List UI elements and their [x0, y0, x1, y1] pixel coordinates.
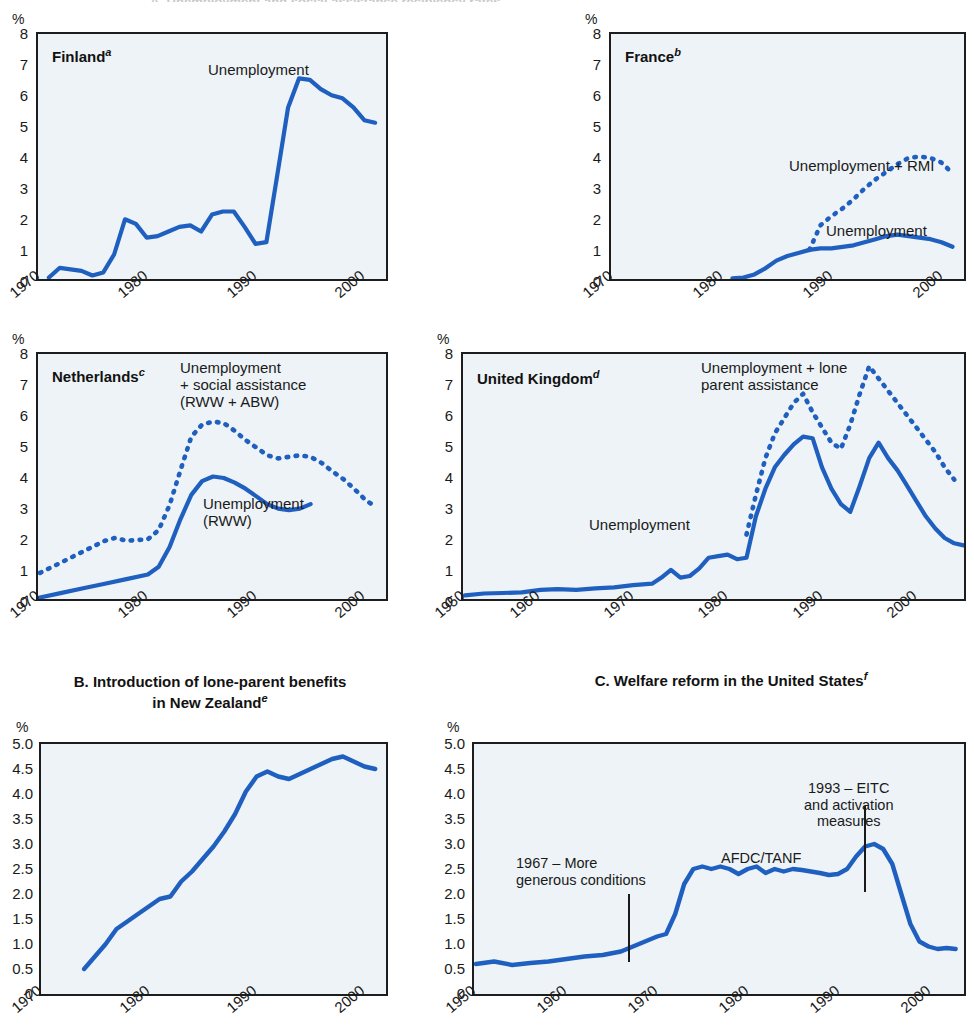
y-tick-finland-5: 5 — [0, 119, 28, 134]
y-tick-uk-1: 1 — [425, 563, 453, 578]
y-tick-us-05: 0.5 — [425, 961, 465, 976]
annotation-1967-line2: generous conditions — [516, 872, 646, 889]
plot-area-netherlands: Netherlandsc Unemployment + social assis… — [36, 352, 388, 601]
section-title-b: B. Introduction of lone-parent benefits … — [0, 673, 420, 713]
y-tick-uk-4: 4 — [425, 470, 453, 485]
y-tick-nz-35: 3.5 — [0, 811, 33, 826]
annotation-1993-line1: 1993 – EITC — [804, 780, 893, 797]
y-tick-france-2: 2 — [573, 212, 601, 227]
y-tick-nz-20: 2.0 — [0, 886, 33, 901]
y-tick-netherlands-5: 5 — [0, 439, 28, 454]
y-tick-nz-30: 3.0 — [0, 836, 33, 851]
series-label-netherlands-dotted-l3: (RWW + ABW) — [180, 394, 306, 411]
y-tick-netherlands-8: 8 — [0, 346, 28, 361]
y-tick-us-35: 3.5 — [425, 811, 465, 826]
y-tick-france-4: 4 — [573, 150, 601, 165]
y-tick-us-40: 4.0 — [425, 786, 465, 801]
y-tick-france-3: 3 — [573, 181, 601, 196]
y-tick-netherlands-7: 7 — [0, 377, 28, 392]
series-label-france-unemployment-rmi: Unemployment + RMI — [789, 158, 934, 175]
chart-panel-united-kingdom: % 8 7 6 5 4 3 2 1 0 United Kingdomd Unem… — [425, 322, 974, 652]
y-tick-nz-10: 1.0 — [0, 936, 33, 951]
section-title-c: C. Welfare reform in the United Statesf — [488, 670, 974, 691]
series-label-netherlands-solid: Unemployment (RWW) — [203, 496, 304, 530]
chart-panel-france: % 8 7 6 5 4 3 2 1 0 Franceb Unemployment… — [573, 0, 974, 320]
chart-panel-finland: % 8 7 6 5 4 3 2 1 0 Finlanda Unemploymen… — [0, 0, 487, 320]
chart-panel-new-zealand: % 5.0 4.5 4.0 3.5 3.0 2.5 2.0 1.5 1.0 0.… — [0, 718, 487, 1034]
y-tick-nz-40: 4.0 — [0, 786, 33, 801]
series-label-netherlands-dotted-l2: + social assistance — [180, 377, 306, 394]
figure-root: A. Unemployment and social assistance re… — [0, 0, 974, 1034]
y-tick-us-20: 2.0 — [425, 886, 465, 901]
y-tick-us-50: 5.0 — [425, 736, 465, 751]
annotation-1993: 1993 – EITC and activation measures — [804, 780, 893, 830]
plot-area-new-zealand — [39, 742, 388, 996]
y-tick-uk-3: 3 — [425, 501, 453, 516]
plot-area-united-states: 1967 – More generous conditions 1993 – E… — [472, 742, 966, 996]
section-title-b-line1: B. Introduction of lone-parent benefits — [0, 673, 420, 692]
y-tick-finland-1: 1 — [0, 243, 28, 258]
plot-svg-new-zealand — [41, 744, 386, 994]
y-tick-finland-2: 2 — [0, 212, 28, 227]
plot-area-united-kingdom: United Kingdomd Unemployment + lone pare… — [461, 352, 966, 601]
y-tick-netherlands-4: 4 — [0, 470, 28, 485]
y-unit-uk: % — [437, 332, 449, 346]
series-label-uk-dotted-l2: parent assistance — [701, 377, 847, 394]
y-tick-uk-5: 5 — [425, 439, 453, 454]
y-tick-netherlands-2: 2 — [0, 532, 28, 547]
series-label-uk-solid: Unemployment — [589, 517, 690, 534]
y-tick-finland-6: 6 — [0, 88, 28, 103]
series-label-netherlands-solid-l1: Unemployment — [203, 496, 304, 513]
y-tick-france-5: 5 — [573, 119, 601, 134]
plot-area-france: Franceb Unemployment + RMI Unemployment — [609, 32, 966, 281]
y-tick-france-7: 7 — [573, 57, 601, 72]
y-tick-netherlands-6: 6 — [0, 408, 28, 423]
annotation-1967: 1967 – More generous conditions — [516, 855, 646, 888]
y-tick-finland-3: 3 — [0, 181, 28, 196]
series-label-netherlands-solid-l2: (RWW) — [203, 513, 304, 530]
y-tick-uk-7: 7 — [425, 377, 453, 392]
y-tick-us-10: 1.0 — [425, 936, 465, 951]
y-unit-netherlands: % — [12, 332, 24, 346]
series-label-uk-dotted: Unemployment + lone parent assistance — [701, 360, 847, 394]
series-label-finland-unemployment: Unemployment — [208, 62, 309, 79]
y-tick-finland-8: 8 — [0, 26, 28, 41]
y-tick-finland-7: 7 — [0, 57, 28, 72]
y-tick-france-6: 6 — [573, 88, 601, 103]
annotation-afdc-tanf: AFDC/TANF — [721, 850, 801, 867]
series-label-netherlands-dotted: Unemployment + social assistance (RWW + … — [180, 360, 306, 410]
chart-title-united-kingdom: United Kingdomd — [477, 368, 600, 387]
plot-area-finland: Finlanda Unemployment — [36, 32, 388, 281]
y-tick-netherlands-1: 1 — [0, 563, 28, 578]
y-tick-nz-45: 4.5 — [0, 761, 33, 776]
y-tick-uk-6: 6 — [425, 408, 453, 423]
chart-panel-united-states: % 5.0 4.5 4.0 3.5 3.0 2.5 2.0 1.5 1.0 0.… — [425, 718, 974, 1034]
y-tick-us-25: 2.5 — [425, 861, 465, 876]
annotation-1993-line3: measures — [804, 813, 893, 830]
y-unit-finland: % — [12, 12, 24, 26]
annotation-1993-line2: and activation — [804, 797, 893, 814]
chart-title-france: Franceb — [625, 46, 681, 65]
y-unit-france: % — [585, 12, 597, 26]
y-unit-new-zealand: % — [16, 720, 28, 734]
y-tick-us-30: 3.0 — [425, 836, 465, 851]
y-tick-us-45: 4.5 — [425, 761, 465, 776]
section-title-c-line1: C. Welfare reform in the United Statesf — [488, 670, 974, 691]
y-tick-france-1: 1 — [573, 243, 601, 258]
series-label-uk-dotted-l1: Unemployment + lone — [701, 360, 847, 377]
chart-panel-netherlands: % 8 7 6 5 4 3 2 1 0 Netherlandsc Unemplo… — [0, 322, 487, 652]
y-tick-us-15: 1.5 — [425, 911, 465, 926]
chart-title-finland: Finlanda — [52, 46, 111, 65]
chart-title-netherlands: Netherlandsc — [52, 366, 145, 385]
series-label-netherlands-dotted-l1: Unemployment — [180, 360, 306, 377]
marker-line-1967 — [628, 894, 630, 962]
annotation-1967-line1: 1967 – More — [516, 855, 646, 872]
y-tick-nz-25: 2.5 — [0, 861, 33, 876]
y-tick-nz-50: 5.0 — [0, 736, 33, 751]
y-tick-uk-2: 2 — [425, 532, 453, 547]
series-label-france-unemployment: Unemployment — [826, 223, 927, 240]
y-tick-netherlands-3: 3 — [0, 501, 28, 516]
y-unit-united-states: % — [447, 720, 459, 734]
y-tick-france-8: 8 — [573, 26, 601, 41]
y-tick-finland-4: 4 — [0, 150, 28, 165]
